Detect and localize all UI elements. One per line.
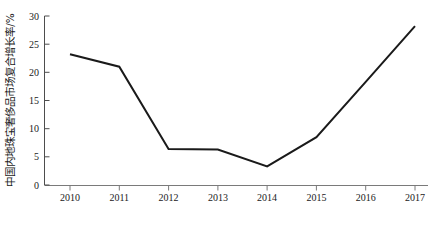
y-axis-ticks [45,16,50,185]
y-tick-label-15: 15 [29,95,39,106]
x-tick-label-2011: 2011 [109,192,129,203]
x-tick-label-2016: 2016 [356,192,376,203]
y-tick-label-20: 20 [29,67,39,78]
x-tick-label-2012: 2012 [159,192,179,203]
y-tick-label-5: 5 [34,151,39,162]
data-series-line [70,26,415,166]
x-tick-label-2010: 2010 [60,192,80,203]
chart-figure: 中国内地珠宝奢侈品市场复合增长率/% 0 5 10 15 20 25 30 [0,0,445,225]
y-tick-label-30: 30 [29,11,39,22]
x-tick-label-2015: 2015 [306,192,326,203]
y-tick-label-25: 25 [29,39,39,50]
y-tick-label-10: 10 [29,123,39,134]
x-axis-ticks [70,186,415,191]
x-tick-label-2014: 2014 [257,192,277,203]
x-tick-label-2017: 2017 [405,192,425,203]
y-tick-label-0: 0 [34,180,39,191]
x-tick-label-2013: 2013 [208,192,228,203]
line-chart-plot: 0 5 10 15 20 25 30 2010 2011 2012 2013 2… [0,0,445,225]
